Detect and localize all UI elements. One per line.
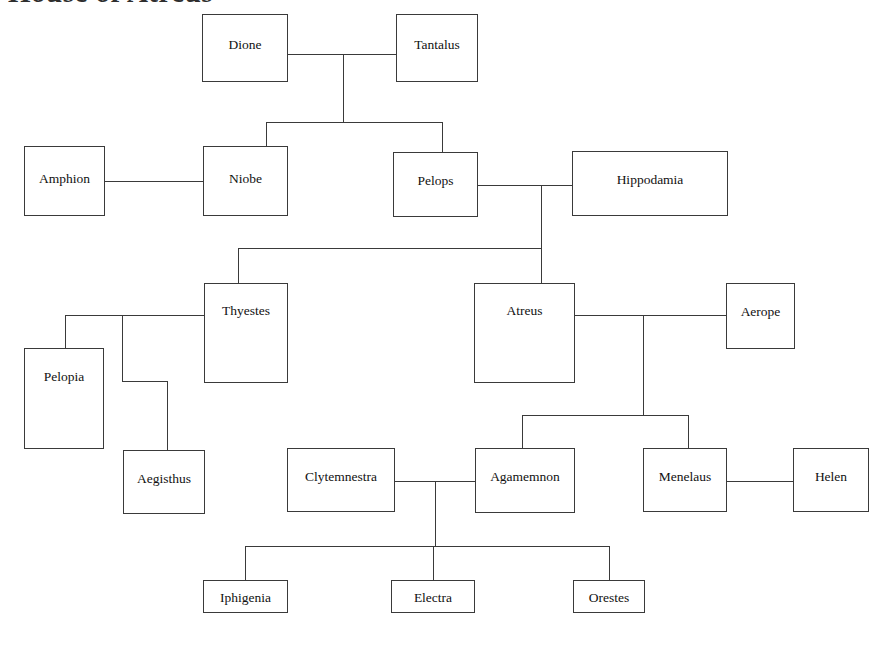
person-node-aerope[interactable]: Aerope [726,283,795,349]
person-node-aegisthus[interactable]: Aegisthus [123,450,205,514]
connector-iphigenia-riser [245,546,246,580]
person-node-helen[interactable]: Helen [793,448,869,512]
connector-dione-tantalus-descend [343,54,344,122]
connector-aegisthus-stem-upper [122,315,123,381]
connector-orestes-riser [609,546,610,580]
connector-thyestes-riser [238,248,239,283]
connector-electra-riser [433,546,434,580]
person-label-aegisthus: Aegisthus [124,471,204,487]
person-node-atreus[interactable]: Atreus [474,283,575,383]
person-label-dione: Dione [203,37,287,53]
person-node-dione[interactable]: Dione [202,14,288,82]
person-node-electra[interactable]: Electra [391,580,475,613]
person-label-amphion: Amphion [25,171,104,187]
connector-aegisthus-stem-jog [122,381,168,382]
connector-pelops-hippodamia-descend [541,185,542,248]
person-label-pelops: Pelops [394,173,477,189]
family-tree-diagram: House of Atreus DioneTantalusAmphionNiob… [0,0,893,654]
connector-tantalus-children-bar [266,122,442,123]
connector-atreus-riser [541,248,542,283]
person-node-amphion[interactable]: Amphion [24,146,105,216]
person-node-thyestes[interactable]: Thyestes [204,283,288,383]
connector-thyestes-pelopia-bar [65,315,204,316]
connector-atreus-aerope-descend [643,315,644,415]
connector-amphion-niobe-marriage [105,181,203,182]
person-label-orestes: Orestes [574,590,644,606]
page-heading-text: House of Atreus [8,0,213,9]
page-heading-clipped: House of Atreus [0,0,893,9]
connector-aegisthus-stem-lower [167,381,168,450]
person-label-thyestes: Thyestes [205,303,287,319]
person-node-pelopia[interactable]: Pelopia [24,348,104,449]
person-label-hippodamia: Hippodamia [573,172,727,188]
person-node-hippodamia[interactable]: Hippodamia [572,151,728,216]
person-label-helen: Helen [794,469,868,485]
person-label-iphigenia: Iphigenia [204,590,287,606]
person-label-atreus: Atreus [475,303,574,319]
connector-agamemnon-riser [522,415,523,448]
person-node-orestes[interactable]: Orestes [573,580,645,613]
connector-pelops-riser [442,122,443,152]
person-label-pelopia: Pelopia [25,369,103,385]
person-node-pelops[interactable]: Pelops [393,152,478,217]
person-node-iphigenia[interactable]: Iphigenia [203,580,288,613]
connector-dione-tantalus-marriage [288,54,396,55]
connector-atreus-thyestes-bar [238,248,542,249]
person-node-tantalus[interactable]: Tantalus [396,14,478,82]
connector-niobe-riser [266,122,267,146]
connector-menelaus-helen-marriage [727,481,793,482]
person-label-aerope: Aerope [727,304,794,320]
person-label-niobe: Niobe [204,171,287,187]
connector-children-bar-bottom [245,546,610,547]
connector-pelopia-riser [65,315,66,348]
person-node-niobe[interactable]: Niobe [203,146,288,216]
person-label-tantalus: Tantalus [397,37,477,53]
person-node-clytemnestra[interactable]: Clytemnestra [287,448,395,512]
person-label-agamemnon: Agamemnon [476,469,574,485]
connector-pelops-hippodamia-marriage [478,185,572,186]
connector-clytemnestra-descend [435,481,436,546]
connector-atreus-aerope-marriage [575,315,726,316]
connector-menelaus-riser [688,415,689,448]
person-node-menelaus[interactable]: Menelaus [643,448,727,512]
person-node-agamemnon[interactable]: Agamemnon [475,448,575,513]
person-label-clytemnestra: Clytemnestra [288,469,394,485]
person-label-menelaus: Menelaus [644,469,726,485]
connector-atreus-children-bar [522,415,688,416]
person-label-electra: Electra [392,590,474,606]
